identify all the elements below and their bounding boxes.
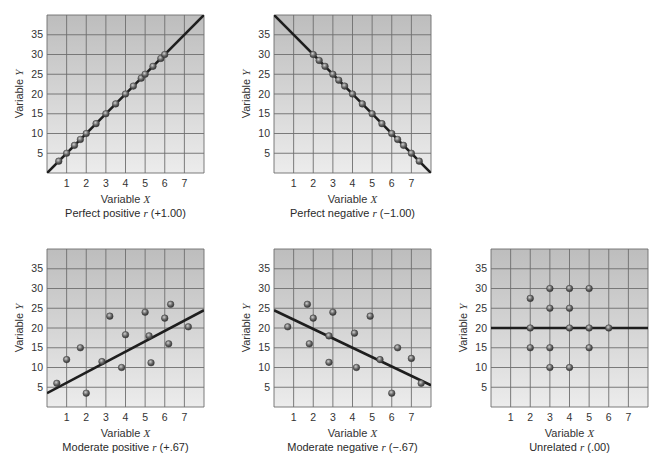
y-axis-label: Variable Y	[240, 68, 252, 119]
x-tick-label: 5	[142, 177, 148, 189]
y-tick-label: 25	[31, 68, 43, 80]
y-tick-label: 25	[475, 302, 487, 314]
data-point	[122, 331, 129, 338]
x-axis-label: Variable X	[274, 427, 431, 439]
y-tick-label: 5	[264, 381, 270, 393]
y-tick-label: 5	[37, 381, 43, 393]
data-point	[566, 305, 573, 312]
x-tick-label: 5	[369, 411, 375, 423]
scatter-plot: 51015202530351234567Variable Y	[0, 0, 230, 200]
x-tick-label: 1	[64, 177, 70, 189]
data-point	[71, 142, 78, 149]
data-point	[527, 325, 534, 332]
x-tick-label: 2	[527, 411, 533, 423]
data-point	[400, 142, 407, 149]
y-tick-label: 15	[31, 341, 43, 353]
data-point	[377, 356, 384, 363]
y-tick-label: 25	[258, 68, 270, 80]
data-point	[54, 380, 61, 387]
y-tick-label: 20	[31, 88, 43, 100]
y-tick-label: 35	[31, 28, 43, 40]
x-tick-label: 3	[103, 411, 109, 423]
panel-caption: Moderate positive r (+.67)	[27, 441, 224, 453]
panel-caption: Perfect positive r (+1.00)	[27, 207, 224, 219]
data-point	[161, 51, 168, 58]
y-tick-label: 5	[481, 381, 487, 393]
data-point	[83, 130, 90, 137]
y-tick-label: 10	[258, 127, 270, 139]
data-point	[330, 309, 337, 316]
data-point	[547, 364, 554, 371]
data-point	[394, 136, 401, 143]
y-axis-label: Variable Y	[13, 68, 25, 119]
data-point	[326, 333, 333, 340]
data-point	[586, 325, 593, 332]
y-tick-label: 35	[475, 262, 487, 274]
chart-moderate-negative: 51015202530351234567Variable YVariable X…	[227, 234, 451, 462]
x-axis-label: Variable X	[47, 193, 204, 205]
data-point	[547, 305, 554, 312]
scatter-plot: 51015202530351234567Variable Y	[444, 234, 672, 434]
data-point	[99, 358, 106, 365]
data-point	[408, 355, 415, 362]
y-tick-label: 35	[258, 262, 270, 274]
x-tick-label: 4	[350, 411, 356, 423]
data-point	[304, 301, 311, 308]
x-axis-label: Variable X	[491, 427, 648, 439]
x-tick-label: 1	[508, 411, 514, 423]
data-point	[122, 91, 129, 98]
y-tick-label: 20	[258, 88, 270, 100]
data-point	[142, 309, 149, 316]
y-tick-label: 15	[31, 107, 43, 119]
x-tick-label: 6	[389, 177, 395, 189]
y-tick-label: 20	[258, 322, 270, 334]
x-tick-label: 6	[389, 411, 395, 423]
data-point	[103, 110, 110, 117]
y-tick-label: 15	[475, 341, 487, 353]
data-point	[566, 364, 573, 371]
data-point	[77, 136, 84, 143]
x-tick-label: 5	[586, 411, 592, 423]
data-point	[77, 344, 84, 351]
y-axis-label: Variable Y	[13, 302, 25, 353]
data-point	[527, 295, 534, 302]
x-tick-label: 6	[162, 411, 168, 423]
data-point	[55, 158, 62, 165]
data-point	[316, 57, 323, 64]
data-point	[310, 51, 317, 58]
data-point	[566, 325, 573, 332]
y-tick-label: 15	[258, 341, 270, 353]
x-tick-label: 6	[162, 177, 168, 189]
data-point	[167, 301, 174, 308]
chart-perfect-negative: 51015202530351234567Variable YVariable X…	[227, 0, 451, 232]
x-tick-label: 7	[408, 411, 414, 423]
y-tick-label: 10	[31, 361, 43, 373]
data-point	[367, 313, 374, 320]
data-point	[605, 325, 612, 332]
x-tick-label: 2	[83, 177, 89, 189]
data-point	[418, 380, 425, 387]
data-point	[146, 333, 153, 340]
y-tick-label: 30	[258, 282, 270, 294]
y-tick-label: 10	[258, 361, 270, 373]
data-point	[547, 344, 554, 351]
data-point	[118, 364, 125, 371]
data-point	[341, 83, 348, 90]
x-tick-label: 4	[123, 411, 129, 423]
x-tick-label: 6	[606, 411, 612, 423]
x-tick-label: 7	[625, 411, 631, 423]
data-point	[322, 63, 329, 70]
data-point	[63, 356, 70, 363]
data-point	[150, 63, 157, 70]
x-tick-label: 7	[181, 411, 187, 423]
y-tick-label: 35	[31, 262, 43, 274]
x-tick-label: 3	[330, 411, 336, 423]
x-tick-label: 3	[330, 177, 336, 189]
y-tick-label: 30	[258, 48, 270, 60]
data-point	[351, 330, 358, 337]
x-tick-label: 2	[83, 411, 89, 423]
scatter-plot: 51015202530351234567Variable Y	[0, 234, 230, 434]
y-axis-label: Variable Y	[240, 302, 252, 353]
scatter-plot: 51015202530351234567Variable Y	[227, 0, 457, 200]
data-point	[284, 324, 291, 331]
